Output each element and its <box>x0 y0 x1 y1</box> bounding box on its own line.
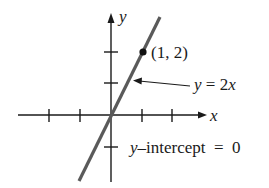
intercept-rest: –intercept = 0 <box>138 138 241 157</box>
point-label: (1, 2) <box>151 44 188 61</box>
equation-x: x <box>228 75 236 94</box>
y-axis-label: y <box>119 8 127 25</box>
y-axis-arrow-icon <box>108 13 115 23</box>
graph-svg <box>0 0 269 188</box>
intercept-label: y–intercept = 0 <box>130 139 241 156</box>
annotation-arrow-icon <box>133 78 142 85</box>
point-1-2 <box>139 48 146 55</box>
equation-var: y <box>194 75 202 94</box>
graph-figure: y x (1, 2) y = 2x y–intercept = 0 <box>0 0 269 188</box>
equation-label: y = 2x <box>194 76 236 93</box>
equation-rest: = 2 <box>202 75 229 94</box>
x-axis-label: x <box>210 107 218 124</box>
annotation-arrow-line <box>139 81 190 86</box>
x-axis-arrow-icon <box>198 112 207 119</box>
intercept-var: y <box>130 138 138 157</box>
